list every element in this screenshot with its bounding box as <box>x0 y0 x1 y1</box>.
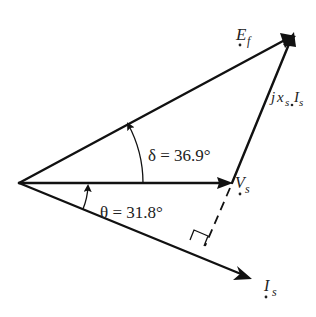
is-label: I s <box>263 277 277 299</box>
is-label-main: I <box>263 277 270 294</box>
right-angle-icon <box>190 230 208 246</box>
jxs-is-label: j x s I s <box>269 89 303 108</box>
is-label-sub: s <box>272 285 277 299</box>
is-phasor <box>19 183 252 280</box>
vs-arrowhead-icon <box>217 177 233 189</box>
vs-label: V s <box>235 174 250 196</box>
theta-arc-icon <box>83 186 88 209</box>
delta-arc-icon <box>128 124 143 183</box>
phasor-diagram: E f j x s I s V s I s δ = 36.9° θ = 31.8… <box>0 0 316 317</box>
ef-label: E f <box>235 25 252 48</box>
is-phasor-dot-icon <box>265 296 268 299</box>
delta-angle-label: δ = 36.9° <box>148 146 211 165</box>
vs-phasor-dot-icon <box>239 193 242 196</box>
ef-label-main: E <box>235 25 247 44</box>
jxs-phasor-dot-icon <box>291 104 294 107</box>
jxs-x-sub: s <box>285 96 289 108</box>
ef-label-sub: f <box>247 34 252 48</box>
theta-angle-label: θ = 31.8° <box>100 203 163 222</box>
vs-label-sub: s <box>245 182 250 196</box>
jxs-I-sub: s <box>299 96 303 108</box>
vs-phasor <box>19 177 233 189</box>
ef-phasor-dot-icon <box>239 44 242 47</box>
jxs-x: x <box>276 89 284 105</box>
projection-dashed-line <box>205 188 230 246</box>
